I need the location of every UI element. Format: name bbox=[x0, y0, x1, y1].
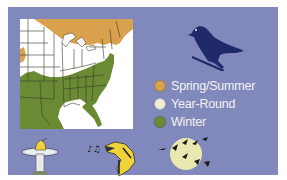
legend-item-year-round: Year-Round bbox=[154, 95, 255, 113]
range-map-panel: Spring/Summer Year-Round Winter ♪♫ bbox=[8, 7, 278, 175]
legend-item-winter: Winter bbox=[154, 113, 255, 131]
bird-silhouette-icon bbox=[184, 19, 248, 71]
range-map bbox=[20, 19, 133, 129]
night-migration-icon bbox=[156, 135, 220, 173]
winter-swatch bbox=[154, 116, 166, 128]
singing-bird-icon: ♪♫ bbox=[85, 138, 143, 178]
birdbath-icon bbox=[18, 138, 68, 178]
year-round-swatch bbox=[154, 98, 166, 110]
legend-label: Winter bbox=[171, 115, 206, 129]
legend-label: Spring/Summer bbox=[171, 79, 255, 93]
legend-label: Year-Round bbox=[171, 97, 235, 111]
map-graphic bbox=[20, 19, 133, 129]
svg-text:♪♫: ♪♫ bbox=[87, 144, 101, 154]
legend: Spring/Summer Year-Round Winter bbox=[154, 77, 255, 131]
spring-summer-swatch bbox=[154, 80, 166, 92]
legend-item-spring-summer: Spring/Summer bbox=[154, 77, 255, 95]
